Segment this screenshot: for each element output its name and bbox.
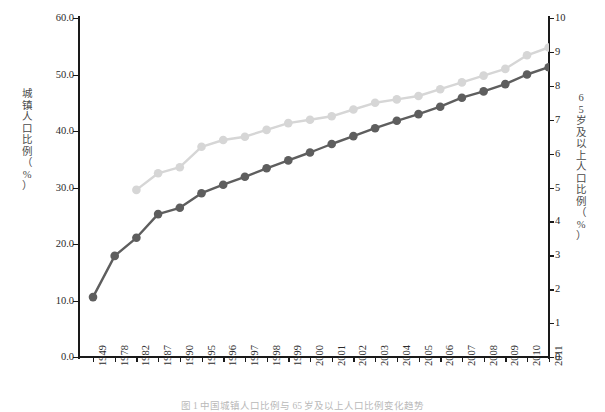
x-tick-label: 2007	[466, 345, 477, 366]
x-tick-label: 1998	[271, 345, 282, 366]
x-tick-label: 1978	[119, 345, 130, 366]
x-tick-label: 2000	[314, 345, 325, 366]
x-tick-label: 1982	[140, 345, 151, 366]
x-tick-label: 1987	[162, 345, 173, 366]
x-tick-label: 2001	[336, 345, 347, 366]
x-tick-label: 2004	[401, 345, 412, 366]
x-tick-label: 2011	[553, 345, 564, 366]
x-tick-label: 1999	[292, 345, 303, 366]
x-tick-label: 1990	[184, 345, 195, 366]
x-tick-label: 2009	[509, 345, 520, 366]
x-tick-label: 2003	[379, 345, 390, 366]
x-tick-label: 2010	[531, 345, 542, 366]
figure-caption: 图 1 中国城镇人口比例与 65 岁及以上人口比例变化趋势	[0, 398, 605, 412]
x-tick-label: 2002	[357, 345, 368, 366]
x-tick-label: 2006	[444, 345, 455, 366]
x-tick-label: 2008	[488, 345, 499, 366]
x-tick-label: 2005	[423, 345, 434, 366]
x-tick-label: 1997	[249, 345, 260, 366]
x-tick-label: 1949	[97, 345, 108, 366]
x-tick-label: 1995	[206, 345, 217, 366]
x-tick-label: 1996	[227, 345, 238, 366]
